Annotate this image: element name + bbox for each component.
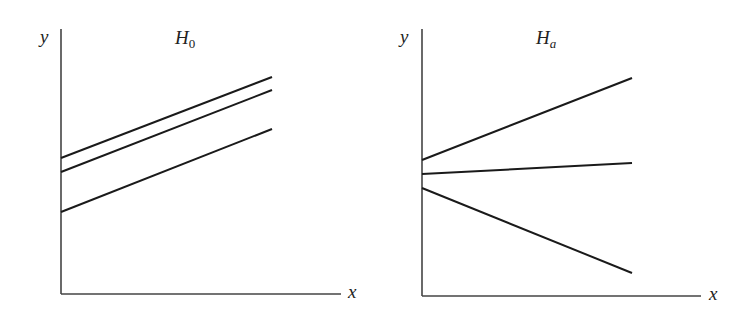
h0-line-3 (61, 129, 272, 212)
title-main: H (175, 27, 189, 48)
x-axis-label: x (709, 284, 717, 303)
x-axis-label: x (348, 282, 356, 301)
y-axis-label: y (400, 27, 408, 46)
regression-hypotheses-diagram (0, 0, 750, 317)
title-main: H (536, 27, 550, 48)
panel-h0 (61, 29, 341, 294)
h0-line-2 (61, 90, 272, 172)
ha-line-1 (422, 78, 632, 160)
h0-line-1 (61, 77, 272, 158)
panel-title-h0: H0 (175, 28, 195, 47)
panel-title-ha: Ha (536, 28, 556, 47)
title-subscript: a (550, 36, 557, 51)
ha-line-3 (422, 188, 632, 273)
title-subscript: 0 (189, 36, 196, 51)
y-axis-label: y (40, 27, 48, 46)
panel-ha (422, 29, 701, 296)
ha-line-2 (422, 163, 632, 174)
